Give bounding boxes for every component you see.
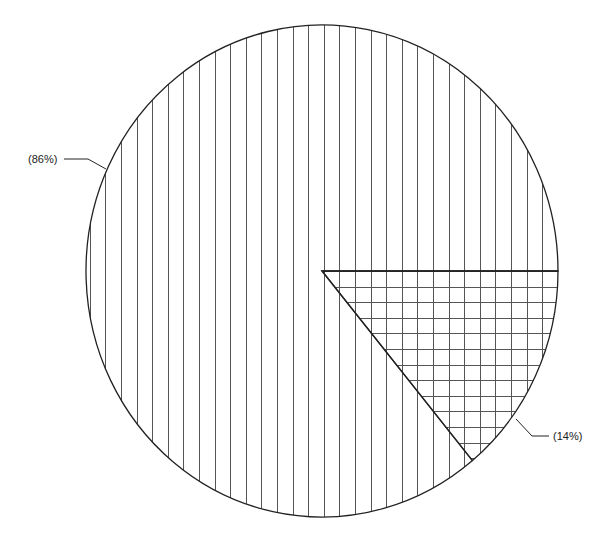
leader-line-14 (516, 419, 549, 436)
pie-slice-86-pattern (75, 0, 606, 537)
pie-slice-14-pattern (0, 0, 614, 537)
pie-chart: (86%) (14%) (0, 0, 614, 537)
label-14: (14%) (553, 430, 582, 442)
label-86: (86%) (28, 153, 57, 165)
leader-line-86 (64, 159, 106, 169)
